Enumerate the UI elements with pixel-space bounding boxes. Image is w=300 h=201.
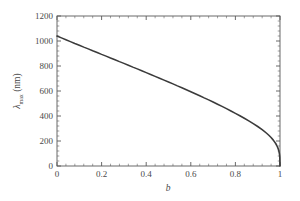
y-tick-label: 800 xyxy=(40,61,54,71)
y-tick-label: 600 xyxy=(40,86,54,96)
y-tick-label: 1200 xyxy=(35,11,54,21)
line-chart: 00.20.40.60.81 020040060080010001200 b λ… xyxy=(0,0,300,201)
x-axis-title: b xyxy=(166,183,171,193)
y-tick-label: 400 xyxy=(40,111,54,121)
x-tick-label: 0.4 xyxy=(141,169,153,179)
x-tick-label: 0.8 xyxy=(230,169,242,179)
x-tick-label: 0.2 xyxy=(96,169,107,179)
y-tick-label: 200 xyxy=(40,136,54,146)
y-axis-subscript: max xyxy=(18,94,24,104)
x-tick-label: 0 xyxy=(55,169,60,179)
y-axis-units: (nm) xyxy=(12,73,23,94)
y-tick-label: 0 xyxy=(49,161,54,171)
x-tick-label: 1 xyxy=(278,169,283,179)
y-tick-label: 1000 xyxy=(35,36,54,46)
x-tick-label: 0.6 xyxy=(185,169,197,179)
figure-container: 00.20.40.60.81 020040060080010001200 b λ… xyxy=(0,0,300,201)
